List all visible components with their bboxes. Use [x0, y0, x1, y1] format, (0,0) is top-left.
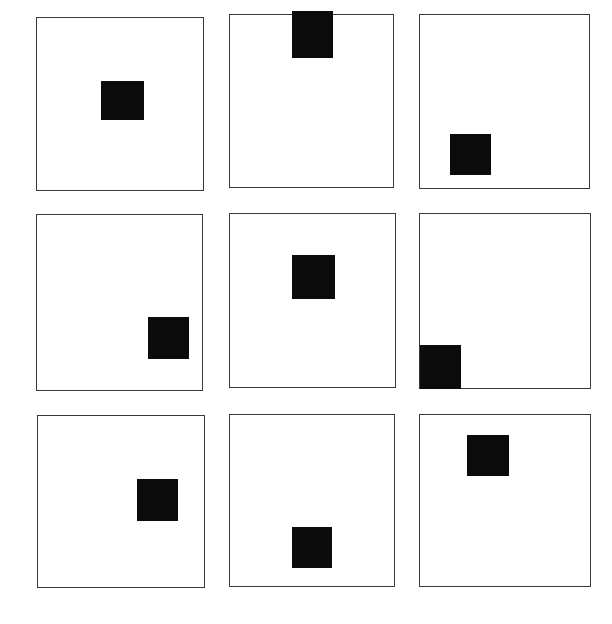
- panel-7-black-square[interactable]: [137, 479, 178, 521]
- panel-4-inner: [37, 215, 202, 390]
- panel-6-frame[interactable]: [419, 213, 591, 389]
- panel-4-black-square[interactable]: [148, 317, 189, 359]
- panel-3-inner: [420, 15, 589, 188]
- panel-1-black-square[interactable]: [101, 81, 144, 120]
- panel-8-inner: [230, 415, 394, 586]
- panel-9-frame[interactable]: [419, 414, 591, 587]
- panel-4-frame[interactable]: [36, 214, 203, 391]
- panel-1-inner: [37, 18, 203, 190]
- panel-2-frame[interactable]: [229, 14, 394, 188]
- panel-7-frame[interactable]: [37, 415, 205, 588]
- panel-9-black-square[interactable]: [467, 435, 509, 476]
- panel-2-black-square[interactable]: [292, 11, 333, 58]
- panel-6-black-square[interactable]: [420, 345, 461, 389]
- panel-5-inner: [230, 214, 395, 387]
- panel-3-black-square[interactable]: [450, 134, 491, 175]
- panel-1-frame[interactable]: [36, 17, 204, 191]
- panel-5-black-square[interactable]: [292, 255, 335, 299]
- panel-2-inner: [230, 15, 393, 187]
- panel-8-black-square[interactable]: [292, 527, 332, 568]
- figure-canvas: [0, 0, 612, 624]
- panel-7-inner: [38, 416, 204, 587]
- panel-3-frame[interactable]: [419, 14, 590, 189]
- panel-8-frame[interactable]: [229, 414, 395, 587]
- panel-5-frame[interactable]: [229, 213, 396, 388]
- panel-9-inner: [420, 415, 590, 586]
- panel-6-inner: [420, 214, 590, 388]
